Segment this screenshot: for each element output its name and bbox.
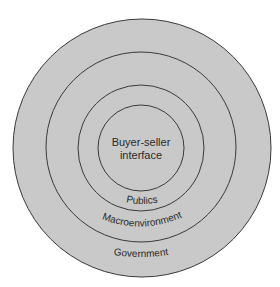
concentric-diagram: Buyer-seller interface Publics Macroenvi… xyxy=(0,0,280,287)
outer-circle-government xyxy=(13,19,271,277)
label-publics: Publics xyxy=(126,193,159,206)
label-interface: interface xyxy=(120,149,162,161)
label-buyer-seller: Buyer-seller xyxy=(112,136,171,148)
